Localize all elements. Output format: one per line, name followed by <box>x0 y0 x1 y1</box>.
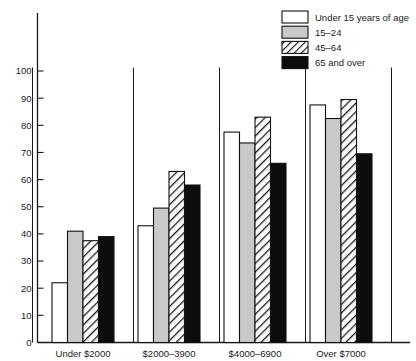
y-tick-label: 80 <box>21 120 32 131</box>
y-tick-label: 100 <box>16 65 32 76</box>
bar <box>271 163 287 342</box>
x-axis-category-labels: Under $2000$2000–3900$4000–6900Over $700… <box>56 348 366 359</box>
bar <box>52 283 68 343</box>
y-tick-label: 10 <box>21 310 32 321</box>
bar <box>240 143 256 343</box>
bar-chart: 0102030405060708090100 Under $2000$2000–… <box>0 0 416 361</box>
x-axis-category-label: $4000–6900 <box>229 348 282 359</box>
y-tick-label: 70 <box>21 147 32 158</box>
bar <box>138 226 154 343</box>
bar <box>68 231 84 342</box>
bar <box>310 105 326 343</box>
y-tick-label: 30 <box>21 255 32 266</box>
legend-swatch <box>282 26 308 38</box>
chart-legend: Under 15 years of age15–2445–6465 and ov… <box>282 11 409 69</box>
bars-group <box>52 100 372 343</box>
bar <box>99 237 115 343</box>
bar <box>185 185 201 342</box>
chart-canvas: 0102030405060708090100 Under $2000$2000–… <box>0 0 416 361</box>
bar <box>326 119 342 343</box>
legend-label: 65 and over <box>315 57 365 68</box>
x-axis-category-label: Over $7000 <box>316 348 366 359</box>
y-tick-label: 90 <box>21 93 32 104</box>
x-axis-category-label: Under $2000 <box>56 348 111 359</box>
y-tick-label: 50 <box>21 201 32 212</box>
y-tick-label: 20 <box>21 283 32 294</box>
bar <box>255 117 271 342</box>
legend-label: 45–64 <box>315 42 341 53</box>
legend-swatch <box>282 11 308 23</box>
y-axis-ticks: 0102030405060708090100 <box>16 65 44 348</box>
y-tick-label: 40 <box>21 228 32 239</box>
bar <box>224 132 240 342</box>
legend-label: 15–24 <box>315 27 341 38</box>
legend-label: Under 15 years of age <box>315 12 409 23</box>
bar <box>357 154 373 343</box>
bar <box>341 100 357 343</box>
plot-area: 0102030405060708090100 Under $2000$2000–… <box>16 11 410 359</box>
legend-swatch <box>282 57 308 69</box>
y-tick-label: 60 <box>21 174 32 185</box>
legend-swatch <box>282 41 308 53</box>
x-axis-category-label: $2000–3900 <box>143 348 196 359</box>
bar <box>169 171 185 342</box>
y-tick-label: 0 <box>26 337 31 348</box>
bar <box>83 241 99 343</box>
bar <box>154 208 170 342</box>
